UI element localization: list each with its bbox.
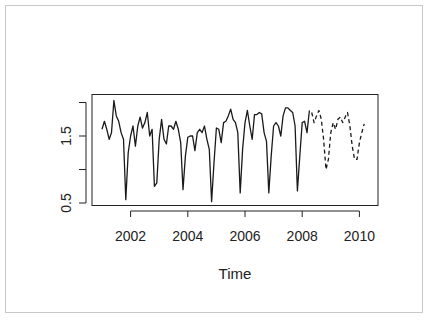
plot-area-box [92, 95, 378, 206]
x-axis: 20022004200620082010 [115, 211, 375, 244]
y-tick-label: 1.5 [58, 126, 74, 146]
time-series-chart: 0.51.5 20022004200620082010 Time [0, 0, 428, 320]
series-lines [102, 101, 364, 202]
x-tick-label: 2008 [287, 228, 318, 244]
x-tick-label: 2004 [172, 228, 203, 244]
x-tick-label: 2002 [115, 228, 146, 244]
forecast-line [312, 111, 365, 170]
y-axis: 0.51.5 [58, 103, 86, 213]
y-tick-label: 0.5 [58, 193, 74, 213]
x-tick-label: 2006 [229, 228, 260, 244]
x-tick-label: 2010 [344, 228, 375, 244]
x-axis-title: Time [219, 265, 252, 282]
observed-line [102, 101, 309, 202]
